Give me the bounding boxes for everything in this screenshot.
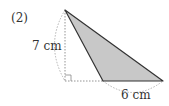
right-angle-marker bbox=[65, 75, 71, 81]
shaded-triangle bbox=[65, 10, 163, 81]
height-label: 7 cm bbox=[32, 40, 62, 52]
base-label: 6 cm bbox=[121, 89, 151, 101]
figure-container: (2) 7 cm 6 cm bbox=[0, 0, 169, 106]
problem-number: (2) bbox=[11, 12, 28, 24]
